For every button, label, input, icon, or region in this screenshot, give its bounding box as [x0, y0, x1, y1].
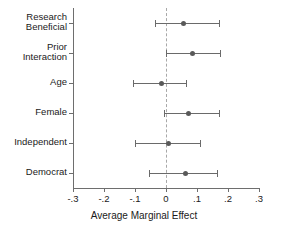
ci-cap-high [186, 80, 187, 87]
y-axis-label-female: Female [0, 107, 67, 118]
y-axis-tick [69, 83, 73, 84]
y-axis-tick [69, 143, 73, 144]
x-axis-tick [166, 188, 167, 192]
ci-cap-high [220, 50, 221, 57]
ci-cap-low [135, 140, 136, 147]
estimate-point [159, 81, 164, 86]
y-axis-label-democrat: Democrat [0, 167, 67, 178]
ci-cap-high [217, 170, 218, 177]
x-axis-tick-label: 0 [151, 193, 181, 204]
ci-cap-high [219, 20, 220, 27]
ci-cap-high [219, 110, 220, 117]
ci-cap-low [149, 170, 150, 177]
x-axis-tick-label: -.3 [58, 193, 88, 204]
ci-cap-high [200, 140, 201, 147]
zero-reference-line [166, 8, 167, 188]
x-axis-tick-label: -.1 [120, 193, 150, 204]
x-axis-tick [73, 188, 74, 192]
y-axis-line [73, 8, 74, 189]
y-axis-tick [69, 173, 73, 174]
y-axis-tick [69, 113, 73, 114]
x-axis-tick [104, 188, 105, 192]
x-axis-title: Average Marginal Effect [0, 210, 288, 221]
x-axis-tick [135, 188, 136, 192]
x-axis-tick-label: .2 [213, 193, 243, 204]
confidence-interval-bar [155, 23, 219, 24]
ci-cap-low [155, 20, 156, 27]
x-axis-tick-label: -.2 [89, 193, 119, 204]
confidence-interval-bar [164, 113, 218, 114]
estimate-point [166, 141, 171, 146]
estimate-point [181, 21, 186, 26]
y-axis-tick [69, 23, 73, 24]
ci-cap-low [166, 50, 167, 57]
x-axis-tick-label: .1 [182, 193, 212, 204]
x-axis-tick [259, 188, 260, 192]
estimate-point [183, 171, 188, 176]
y-axis-label-research-beneficial: Research Beneficial [0, 12, 67, 33]
x-axis-tick [228, 188, 229, 192]
y-axis-label-prior-interaction: Prior Interaction [0, 42, 67, 63]
y-axis-label-independent: Independent [0, 137, 67, 148]
y-axis-label-age: Age [0, 77, 67, 88]
x-axis-tick [197, 188, 198, 192]
ci-cap-low [164, 110, 165, 117]
estimate-point [190, 51, 195, 56]
x-axis-tick-label: .3 [244, 193, 274, 204]
ci-cap-low [133, 80, 134, 87]
coefficient-plot: Research BeneficialPrior InteractionAgeF… [0, 0, 288, 234]
estimate-point [186, 111, 191, 116]
y-axis-tick [69, 53, 73, 54]
